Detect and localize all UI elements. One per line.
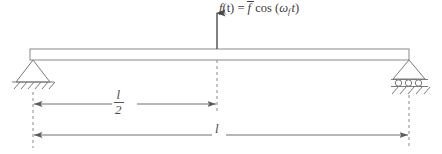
half-span-denominator: 2 xyxy=(114,102,124,117)
full-span-label: l xyxy=(215,122,219,135)
roller-circle xyxy=(395,80,401,86)
force-function-argument: (t) xyxy=(222,1,234,15)
close-paren: ) xyxy=(295,1,299,15)
half-span-fraction: l 2 xyxy=(114,88,124,116)
roller-support-hatching xyxy=(392,87,430,94)
half-span-numerator: l xyxy=(114,88,124,102)
roller-support-rollers xyxy=(395,80,421,86)
diagram-canvas xyxy=(0,0,442,154)
force-amplitude-symbol: f xyxy=(248,2,252,15)
roller-support xyxy=(391,60,430,94)
roller-circle xyxy=(405,80,411,86)
beam-body xyxy=(30,49,409,60)
pin-support-hatching xyxy=(14,82,55,89)
pin-support xyxy=(12,60,55,89)
half-span-label: l 2 xyxy=(114,88,124,117)
force-equation-label: f(t) = f cos (ωf t) xyxy=(219,2,299,16)
pin-support-triangle xyxy=(16,60,50,82)
roller-support-triangle xyxy=(393,60,425,79)
roller-circle xyxy=(415,80,421,86)
beam-diagram: f(t) = f cos (ωf t) l 2 l xyxy=(0,0,442,154)
omega-symbol: ω xyxy=(279,1,288,15)
cosine-operator: cos xyxy=(255,1,272,15)
beam-member xyxy=(30,49,409,60)
